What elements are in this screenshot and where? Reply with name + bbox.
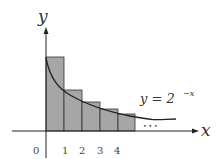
y-axis-arrow-icon	[44, 27, 49, 34]
curve-label-exponent: −x	[183, 89, 195, 98]
bar-3	[82, 102, 100, 131]
riemann-sum-diagram: y x 0 1 2 3 4 • • • y = 2 −x	[0, 0, 220, 159]
y-axis-label: y	[37, 6, 48, 26]
tick-label-1: 1	[62, 145, 68, 156]
x-axis-label: x	[201, 120, 211, 140]
curve-label-base: y = 2	[139, 91, 175, 106]
ellipsis: • • •	[143, 122, 157, 129]
tick-label-3: 3	[97, 145, 103, 156]
tick-label-2: 2	[79, 145, 85, 156]
bars	[46, 57, 135, 131]
origin-label: 0	[33, 145, 39, 156]
x-axis-arrow-icon	[192, 129, 199, 134]
tick-label-4: 4	[114, 145, 120, 156]
curve-label: y = 2 −x	[139, 89, 195, 106]
